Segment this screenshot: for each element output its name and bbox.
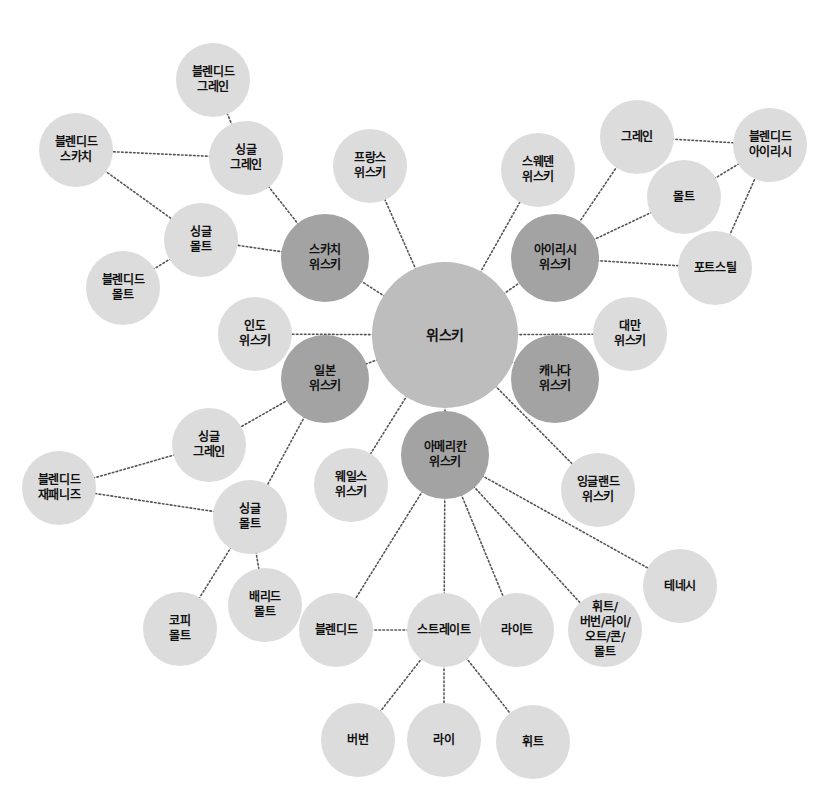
node-am_rye: 라이 <box>407 703 481 777</box>
node-am_wheat: 휘트 <box>496 705 570 779</box>
node-label: 그레인 <box>621 130 653 145</box>
node-am_bourbon: 버번 <box>321 703 395 777</box>
node-jp_single_grain: 싱글 그레인 <box>172 408 246 482</box>
node-label: 휘트/ 버번/라이/ 오트/콘/ 몰트 <box>580 600 631 660</box>
edge-jp_single_grain-jp_blended_japanese <box>93 455 176 479</box>
node-label: 블렌디드 몰트 <box>102 273 145 303</box>
node-label: 스카치 위스키 <box>309 243 341 273</box>
node-wales: 웨일스 위스키 <box>314 448 388 522</box>
edge-japan-jp_single_grain <box>239 400 288 428</box>
node-ir_grain: 그레인 <box>600 100 674 174</box>
node-japan: 일본 위스키 <box>281 335 369 423</box>
node-label: 싱글 몰트 <box>190 225 211 255</box>
node-india: 인도 위스키 <box>218 297 292 371</box>
node-label: 테네시 <box>664 579 696 594</box>
node-label: 싱글 그레인 <box>230 143 262 173</box>
edge-sc_single_malt-sc_blended_malt <box>153 258 171 269</box>
node-sc_blended_malt: 블렌디드 몰트 <box>86 251 160 325</box>
edge-jp_single_malt-jp_blended_japanese <box>94 493 216 511</box>
node-sweden: 스웨덴 위스키 <box>501 133 575 207</box>
node-am_straight: 스트레이트 <box>407 593 481 667</box>
node-label: 아이리시 위스키 <box>534 243 577 273</box>
node-label: 코피 몰트 <box>169 614 190 644</box>
node-label: 웨일스 위스키 <box>335 470 367 500</box>
node-ir_blended_irish: 블렌디드 아이리시 <box>733 108 807 182</box>
node-label: 블렌디드 아이리시 <box>749 130 792 160</box>
node-jp_buried_malt: 배리드 몰트 <box>228 568 302 642</box>
node-label: 위스키 <box>426 328 464 343</box>
edge-scotch-sc_single_malt <box>236 245 284 252</box>
node-ir_malt: 몰트 <box>647 160 721 234</box>
edge-irish-ir_pot_still <box>597 261 680 266</box>
node-whisky: 위스키 <box>372 262 518 408</box>
edge-american-am_straight <box>444 497 445 595</box>
node-label: 인도 위스키 <box>239 319 271 349</box>
node-am_blended: 블렌디드 <box>299 593 373 667</box>
edge-whisky-irish <box>503 282 520 294</box>
node-taiwan: 대만 위스키 <box>593 297 667 371</box>
edge-whisky-scotch <box>360 281 385 297</box>
node-label: 스웨덴 위스키 <box>522 155 554 185</box>
node-label: 라이 <box>433 733 454 748</box>
edge-irish-ir_malt <box>593 212 652 240</box>
node-label: 몰트 <box>673 190 694 205</box>
node-label: 블렌디드 스카치 <box>55 135 98 165</box>
node-france: 프랑스 위스키 <box>333 129 407 203</box>
node-label: 블렌디드 <box>315 623 358 638</box>
node-jp_single_malt: 싱글 몰트 <box>213 480 287 554</box>
edge-scotch-sc_single_grain <box>268 185 299 225</box>
node-sc_blended_grain: 블렌디드 그레인 <box>176 43 250 117</box>
node-england: 잉글랜드 위스키 <box>561 453 635 527</box>
node-ir_pot_still: 포트스틸 <box>678 231 752 305</box>
edge-sc_single_grain-sc_blended_scotch <box>111 152 211 157</box>
edge-am_straight-am_wheat <box>466 657 511 714</box>
node-label: 라이트 <box>501 623 533 638</box>
edge-irish-ir_grain <box>579 166 618 223</box>
node-sc_single_grain: 싱글 그레인 <box>209 121 283 195</box>
node-label: 배리드 몰트 <box>249 590 281 620</box>
edge-ir_malt-ir_blended_irish <box>714 163 740 179</box>
node-label: 캐나다 위스키 <box>539 364 571 394</box>
node-scotch: 스카치 위스키 <box>281 214 369 302</box>
node-am_light: 라이트 <box>480 593 554 667</box>
edge-ir_grain-ir_blended_irish <box>672 139 735 143</box>
node-label: 버번 <box>347 733 368 748</box>
node-label: 스트레이트 <box>417 623 471 638</box>
edge-japan-jp_single_malt <box>267 416 305 486</box>
whisky-mind-map: 위스키스카치 위스키아이리시 위스키일본 위스키캐나다 위스키아메리칸 위스키프… <box>0 0 840 807</box>
node-canada: 캐나다 위스키 <box>511 335 599 423</box>
node-jp_blended_japanese: 블렌디드 재패니즈 <box>22 451 96 525</box>
node-label: 블렌디드 그레인 <box>192 65 235 95</box>
edge-ir_pot_still-ir_blended_irish <box>729 177 755 236</box>
node-label: 일본 위스키 <box>309 364 341 394</box>
edge-jp_single_malt-jp_coffey_malt <box>199 547 232 600</box>
node-label: 포트스틸 <box>694 261 737 276</box>
node-label: 프랑스 위스키 <box>354 151 386 181</box>
node-label: 아메리칸 위스키 <box>424 440 467 470</box>
node-american: 아메리칸 위스키 <box>401 411 489 499</box>
node-label: 싱글 몰트 <box>239 502 260 532</box>
node-am_wheat_etc: 휘트/ 버번/라이/ 오트/콘/ 몰트 <box>568 593 642 667</box>
node-am_tennessee: 테네시 <box>643 549 717 623</box>
node-label: 블렌디드 재패니즈 <box>38 473 81 503</box>
edge-whisky-france <box>384 198 416 270</box>
edge-am_straight-am_bourbon <box>380 658 423 713</box>
node-label: 대만 위스키 <box>614 319 646 349</box>
node-irish: 아이리시 위스키 <box>511 214 599 302</box>
node-sc_single_malt: 싱글 몰트 <box>164 203 238 277</box>
node-sc_blended_scotch: 블렌디드 스카치 <box>39 113 113 187</box>
node-label: 싱글 그레인 <box>193 430 225 460</box>
edge-american-am_light <box>461 494 504 598</box>
node-jp_coffey_malt: 코피 몰트 <box>143 592 217 666</box>
node-label: 휘트 <box>522 735 543 750</box>
edge-sc_blended_scotch-sc_single_malt <box>104 170 172 219</box>
node-label: 잉글랜드 위스키 <box>577 475 620 505</box>
